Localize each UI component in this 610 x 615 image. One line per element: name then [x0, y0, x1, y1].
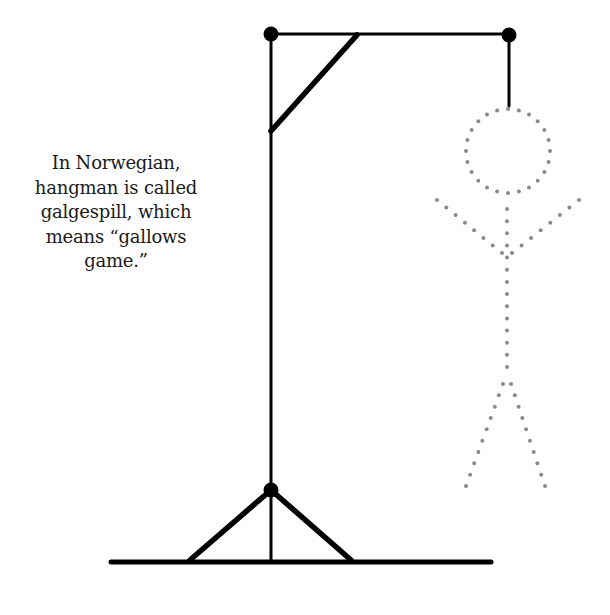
- figure-body-dot: [505, 365, 509, 369]
- figure-right-arm-dot: [510, 251, 514, 255]
- figure-right-leg-dot: [509, 382, 513, 386]
- figure-head-dot: [542, 128, 546, 132]
- figure-head-dot: [465, 160, 469, 164]
- hangman-illustration: [0, 0, 610, 615]
- figure-head-dot: [464, 149, 468, 153]
- figure-left-leg-dot: [485, 427, 489, 431]
- figure-head-dot: [542, 170, 546, 174]
- figure-body-dot: [505, 353, 509, 357]
- figure-left-arm-dot: [481, 236, 485, 240]
- gallows-base-left-leg: [190, 490, 271, 560]
- figure-right-leg-dot: [520, 416, 524, 420]
- figure-right-leg-dot: [517, 405, 521, 409]
- figure-body-dot: [505, 292, 509, 296]
- figure-right-arm-dot: [577, 198, 581, 202]
- gallows-joint-dot: [264, 483, 279, 498]
- figure-right-leg-dot: [535, 461, 539, 465]
- figure-body-dot: [505, 329, 509, 333]
- figure-right-arm-dot: [539, 228, 543, 232]
- fact-line-3: galgespill, which: [18, 200, 214, 225]
- figure-right-leg-dot: [532, 450, 536, 454]
- figure-right-arm-dot: [548, 221, 552, 225]
- figure-left-arm-dot: [472, 228, 476, 232]
- figure-body-dot: [505, 341, 509, 345]
- figure-body-dot: [505, 280, 509, 284]
- figure-body-dot: [505, 268, 509, 272]
- figure-body-dot: [505, 256, 509, 260]
- figure-head-dot: [495, 108, 499, 112]
- gallows-joint-dot: [502, 28, 517, 43]
- figure-head-dot: [506, 191, 510, 195]
- figure-body-dot: [505, 316, 509, 320]
- figure-head-dot: [536, 179, 540, 183]
- figure-head-dot: [470, 128, 474, 132]
- figure-head-dot: [517, 190, 521, 194]
- figure-left-arm-dot: [454, 213, 458, 217]
- figure-left-leg-dot: [501, 382, 505, 386]
- figure-right-leg-dot: [524, 427, 528, 431]
- fact-line-5: game.”: [18, 249, 214, 274]
- figure-head-dot: [536, 119, 540, 123]
- figure-head-dot: [476, 119, 480, 123]
- figure-head-dot: [527, 185, 531, 189]
- figure-head-dot: [506, 107, 510, 111]
- figure-left-leg-dot: [493, 405, 497, 409]
- figure-left-arm-dot: [435, 198, 439, 202]
- figure-left-arm-dot: [444, 206, 448, 210]
- figure-left-leg-dot: [464, 484, 468, 488]
- figure-head-dot: [476, 179, 480, 183]
- figure-head-dot: [527, 113, 531, 117]
- figure-head-dot: [548, 149, 552, 153]
- figure-right-leg-dot: [528, 439, 532, 443]
- figure-right-arm-dot: [567, 206, 571, 210]
- hangman-figure-dotted: [435, 107, 581, 488]
- figure-left-leg-dot: [472, 461, 476, 465]
- figure-left-leg-dot: [497, 393, 501, 397]
- figure-head-dot: [465, 138, 469, 142]
- figure-left-arm-dot: [500, 251, 504, 255]
- figure-body-dot: [505, 244, 509, 248]
- figure-head-dot: [547, 160, 551, 164]
- figure-left-leg-dot: [480, 439, 484, 443]
- gallows-brace: [271, 35, 357, 131]
- fact-line-4: means “gallows: [18, 225, 214, 250]
- hangman-fact-text: In Norwegian, hangman is called galgespi…: [18, 151, 214, 274]
- figure-head-dot: [547, 138, 551, 142]
- figure-head-dot: [470, 170, 474, 174]
- figure-right-arm-dot: [520, 243, 524, 247]
- figure-body-dot: [505, 219, 509, 223]
- figure-left-arm-dot: [491, 243, 495, 247]
- gallows-base-right-leg: [271, 490, 351, 560]
- figure-head-dot: [485, 185, 489, 189]
- figure-body-dot: [505, 207, 509, 211]
- fact-line-1: In Norwegian,: [18, 151, 214, 176]
- figure-right-arm-dot: [529, 236, 533, 240]
- figure-right-leg-dot: [539, 473, 543, 477]
- figure-left-leg-dot: [476, 450, 480, 454]
- figure-head-dot: [495, 190, 499, 194]
- figure-head-dot: [485, 113, 489, 117]
- figure-body-dot: [505, 231, 509, 235]
- figure-right-leg-dot: [513, 393, 517, 397]
- gallows: [111, 34, 509, 562]
- figure-head-dot: [517, 108, 521, 112]
- gallows-joint-dot: [264, 27, 279, 42]
- figure-body-dot: [505, 304, 509, 308]
- figure-left-leg-dot: [489, 416, 493, 420]
- fact-line-2: hangman is called: [18, 176, 214, 201]
- figure-left-arm-dot: [463, 221, 467, 225]
- figure-left-leg-dot: [468, 473, 472, 477]
- figure-right-arm-dot: [558, 213, 562, 217]
- figure-right-leg-dot: [543, 484, 547, 488]
